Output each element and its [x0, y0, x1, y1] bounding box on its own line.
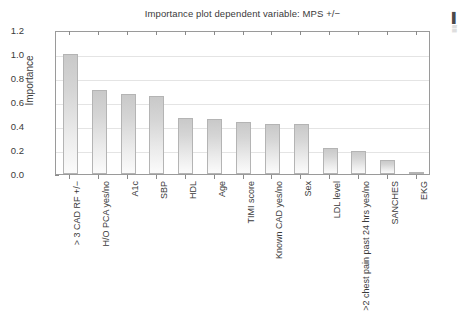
- bar: [380, 160, 395, 174]
- x-tick-mark-top: [243, 31, 244, 35]
- x-category-label: >2 chest pain past 24 hrs yes/no: [362, 181, 371, 311]
- x-tick-mark: [387, 175, 388, 179]
- x-tick-mark-top: [416, 31, 417, 35]
- x-tick-mark: [329, 175, 330, 179]
- x-tick-mark: [300, 175, 301, 179]
- x-category-label: SANCHES: [391, 181, 400, 225]
- y-tick-label: 0.2: [0, 146, 24, 156]
- x-tick-mark: [243, 175, 244, 179]
- x-tick-mark-top: [214, 31, 215, 35]
- x-tick-mark: [127, 175, 128, 179]
- plot-area: [55, 31, 430, 175]
- gridline: [56, 104, 429, 105]
- x-category-label: Age: [218, 181, 227, 197]
- x-tick-mark: [98, 175, 99, 179]
- bar: [121, 94, 136, 174]
- chart-title: Importance plot dependent variable: MPS …: [55, 8, 430, 19]
- y-tick-label: 1.2: [0, 26, 24, 36]
- x-category-label: Sex: [304, 181, 313, 197]
- x-category-label: A1c: [131, 181, 140, 197]
- edge-glyph-bold-icon: ▌: [452, 12, 459, 23]
- bar: [92, 90, 107, 174]
- x-tick-mark-top: [185, 31, 186, 35]
- x-tick-mark: [416, 175, 417, 179]
- y-tick-label: 1.0: [0, 50, 24, 60]
- bar: [265, 124, 280, 174]
- x-tick-mark-top: [358, 31, 359, 35]
- x-tick-mark: [69, 175, 70, 179]
- bar: [149, 96, 164, 174]
- bar: [207, 119, 222, 174]
- gridline: [56, 80, 429, 81]
- x-tick-mark-top: [156, 31, 157, 35]
- y-tick-label: 0.4: [0, 122, 24, 132]
- bar: [178, 118, 193, 174]
- page-edge-artifact: ▌ ▒: [452, 12, 465, 38]
- y-tick-label: 0.6: [0, 98, 24, 108]
- x-tick-mark-top: [329, 31, 330, 35]
- x-tick-mark: [156, 175, 157, 179]
- bar: [351, 151, 366, 174]
- x-tick-mark-top: [271, 31, 272, 35]
- importance-bar-chart-figure: Importance plot dependent variable: MPS …: [0, 0, 465, 328]
- y-tick-mark: [55, 175, 59, 176]
- y-tick-label: 0.0: [0, 170, 24, 180]
- x-tick-mark-top: [98, 31, 99, 35]
- x-tick-mark: [214, 175, 215, 179]
- y-tick-label: 0.8: [0, 74, 24, 84]
- gridline: [56, 56, 429, 57]
- x-tick-mark: [358, 175, 359, 179]
- edge-glyph-small-icon: ▒: [452, 25, 457, 32]
- x-tick-mark: [185, 175, 186, 179]
- x-category-label: TIMI score: [247, 181, 256, 224]
- x-category-label: Known CAD yes/no: [275, 181, 284, 259]
- x-tick-mark: [271, 175, 272, 179]
- bar: [294, 124, 309, 174]
- x-category-label: H/O PCA yes/no: [102, 181, 111, 247]
- x-category-label: > 3 CAD RF +/−: [73, 181, 82, 245]
- x-tick-mark-top: [300, 31, 301, 35]
- x-category-label: LDL level: [333, 181, 342, 218]
- x-category-label: SBP: [160, 181, 169, 199]
- x-tick-mark-top: [127, 31, 128, 35]
- x-tick-mark-top: [387, 31, 388, 35]
- bar: [409, 172, 424, 174]
- x-tick-mark-top: [69, 31, 70, 35]
- bar: [323, 148, 338, 174]
- bar: [63, 54, 78, 174]
- y-axis-title: Importance: [24, 26, 35, 136]
- x-category-label: EKG: [420, 181, 429, 200]
- x-category-label: HDL: [189, 181, 198, 199]
- bar: [236, 122, 251, 174]
